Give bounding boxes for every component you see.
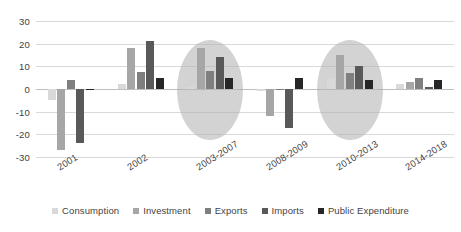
bar	[127, 48, 135, 89]
legend-swatch-icon	[133, 208, 139, 214]
legend-swatch-icon	[318, 208, 324, 214]
y-axis-tick-label: 10	[19, 61, 30, 72]
bar	[86, 89, 94, 90]
bar	[225, 78, 233, 89]
legend-swatch-icon	[52, 208, 58, 214]
legend-item-label: Imports	[272, 205, 304, 216]
legend-item[interactable]: Exports	[205, 205, 248, 216]
y-axis-tick-label: -20	[16, 129, 30, 140]
y-axis-tick-label: -10	[16, 106, 30, 117]
bar	[67, 80, 75, 89]
bar	[206, 71, 214, 89]
bar	[396, 84, 404, 89]
bar	[257, 89, 265, 91]
legend-item[interactable]: Public Expenditure	[318, 205, 409, 216]
bar	[406, 82, 414, 89]
y-axis-tick-label: 0	[25, 84, 30, 95]
y-axis-tick-label: 30	[19, 16, 30, 27]
bar	[276, 89, 284, 90]
bar	[216, 57, 224, 89]
bar	[76, 89, 84, 143]
bar	[425, 87, 433, 89]
legend-swatch-icon	[205, 208, 211, 214]
chart-legend: ConsumptionInvestmentExportsImportsPubli…	[0, 205, 461, 216]
bar	[295, 78, 303, 89]
legend-item[interactable]: Imports	[262, 205, 304, 216]
bar-chart: 3020100-10-20-30 200120022003-20072008-2…	[0, 0, 461, 232]
y-axis: 3020100-10-20-30	[0, 21, 34, 157]
legend-item-label: Consumption	[62, 205, 119, 216]
legend-item-label: Public Expenditure	[328, 205, 409, 216]
legend-swatch-icon	[262, 208, 268, 214]
legend-item-label: Investment	[143, 205, 190, 216]
bar	[355, 66, 363, 89]
bar	[118, 84, 126, 89]
bar	[137, 72, 145, 89]
bar	[266, 89, 274, 116]
bar	[146, 41, 154, 89]
legend-item[interactable]: Consumption	[52, 205, 119, 216]
bar	[57, 89, 65, 150]
bar	[187, 87, 195, 89]
legend-item[interactable]: Investment	[133, 205, 190, 216]
bar	[197, 48, 205, 89]
x-axis: 200120022003-20072008-20092010-20132014-…	[36, 157, 454, 203]
bar	[434, 80, 442, 89]
bar	[365, 80, 373, 89]
legend-item-label: Exports	[215, 205, 248, 216]
bar	[327, 78, 335, 89]
bar-layer	[36, 21, 454, 157]
bar	[346, 73, 354, 89]
bar	[336, 55, 344, 89]
bar	[285, 89, 293, 128]
y-axis-tick-label: -30	[16, 152, 30, 163]
bar	[415, 78, 423, 89]
y-axis-tick-label: 20	[19, 38, 30, 49]
bar	[48, 89, 56, 100]
bar	[156, 78, 164, 89]
